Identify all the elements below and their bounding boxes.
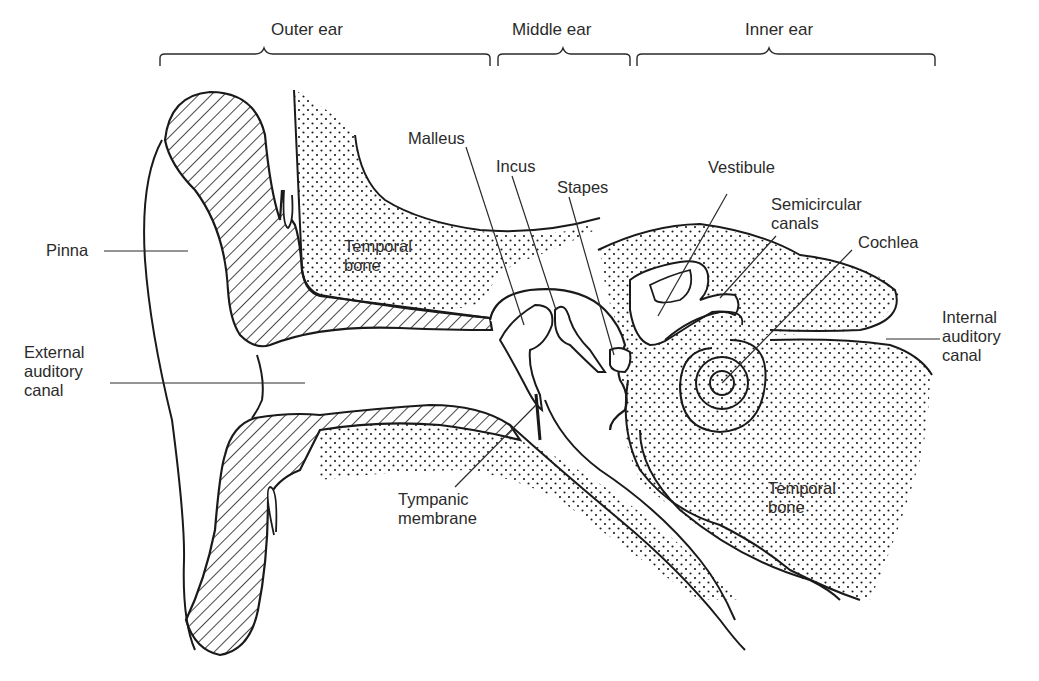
label-temporal-bone-upper-line1: Temporal <box>344 237 412 256</box>
section-brackets <box>160 48 935 66</box>
section-label-inner-ear: Inner ear <box>745 20 813 40</box>
label-temporal-bone-upper-line2: bone <box>344 256 412 275</box>
label-semicircular-canals: Semicircular canals <box>771 195 862 233</box>
label-tympanic-membrane-line1: Tympanic <box>398 490 477 509</box>
section-label-outer-ear: Outer ear <box>271 20 343 40</box>
label-internal-auditory-canal-line1: Internal <box>942 308 1001 327</box>
label-vestibule: Vestibule <box>708 158 775 177</box>
label-temporal-bone-upper: Temporal bone <box>344 237 412 275</box>
label-malleus: Malleus <box>408 129 465 148</box>
label-external-auditory-canal-line2: auditory <box>24 362 85 381</box>
pinna-notch <box>284 190 293 228</box>
ear-anatomy-diagram <box>0 0 1039 681</box>
label-stapes: Stapes <box>557 178 608 197</box>
label-incus: Incus <box>496 157 535 176</box>
label-internal-auditory-canal-line2: auditory <box>942 327 1001 346</box>
label-semicircular-canals-line2: canals <box>771 214 862 233</box>
label-external-auditory-canal: External auditory canal <box>24 343 85 400</box>
label-semicircular-canals-line1: Semicircular <box>771 195 862 214</box>
label-tympanic-membrane: Tympanic membrane <box>398 490 477 528</box>
label-external-auditory-canal-line1: External <box>24 343 85 362</box>
inner-ear-bracket <box>637 48 935 66</box>
label-temporal-bone-lower-line2: bone <box>768 498 836 517</box>
label-pinna: Pinna <box>46 241 88 260</box>
middle-ear-bracket <box>498 48 630 66</box>
temporal-bone-upper <box>294 90 595 310</box>
label-cochlea: Cochlea <box>858 233 919 252</box>
label-temporal-bone-lower-line1: Temporal <box>768 479 836 498</box>
label-tympanic-membrane-line2: membrane <box>398 509 477 528</box>
pinna-lobe-notch <box>268 487 277 535</box>
label-temporal-bone-lower: Temporal bone <box>768 479 836 517</box>
label-external-auditory-canal-line3: canal <box>24 381 85 400</box>
section-label-middle-ear: Middle ear <box>512 20 591 40</box>
outer-ear-bracket <box>160 48 490 66</box>
label-internal-auditory-canal: Internal auditory canal <box>942 308 1001 365</box>
label-internal-auditory-canal-line3: canal <box>942 346 1001 365</box>
